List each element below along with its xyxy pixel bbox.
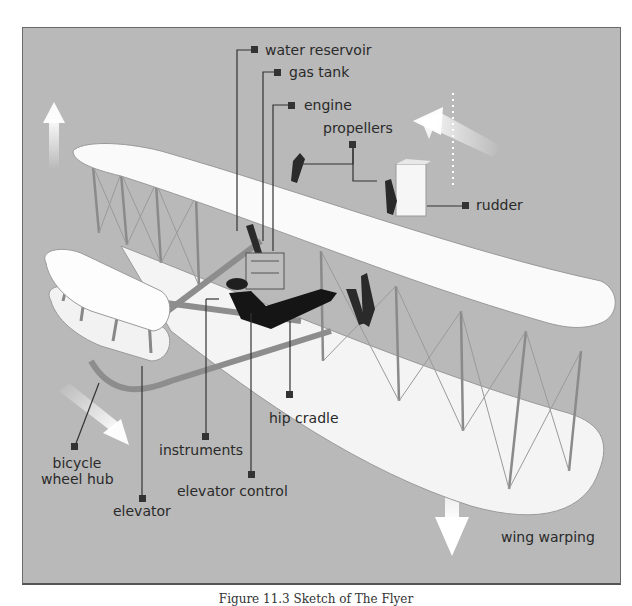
label-instruments: instruments	[159, 442, 243, 458]
rudder-shape	[396, 159, 431, 216]
label-bicycle-wheel-hub: bicycle wheel hub	[41, 455, 113, 487]
up-arrow-icon	[43, 102, 65, 169]
up-left-arrow-icon	[413, 107, 501, 157]
label-elevator: elevator	[113, 503, 171, 519]
label-engine: engine	[304, 97, 352, 113]
engine-block	[246, 253, 284, 289]
label-gas-tank: gas tank	[289, 64, 349, 80]
down-right-arrow-icon	[59, 383, 129, 445]
label-water-reservoir: water reservoir	[265, 42, 372, 58]
label-bicycle-wheel-hub-line1: bicycle	[41, 455, 113, 471]
label-propellers: propellers	[323, 120, 393, 136]
label-hip-cradle: hip cradle	[269, 410, 339, 426]
label-wing-warping: wing warping	[501, 529, 595, 545]
label-rudder: rudder	[476, 197, 523, 213]
label-bicycle-wheel-hub-line2: wheel hub	[41, 471, 113, 487]
label-elevator-control: elevator control	[177, 483, 288, 499]
figure-caption: Figure 11.3 Sketch of The Flyer	[0, 592, 632, 606]
figure-panel: water reservoir gas tank engine propelle…	[22, 27, 621, 585]
